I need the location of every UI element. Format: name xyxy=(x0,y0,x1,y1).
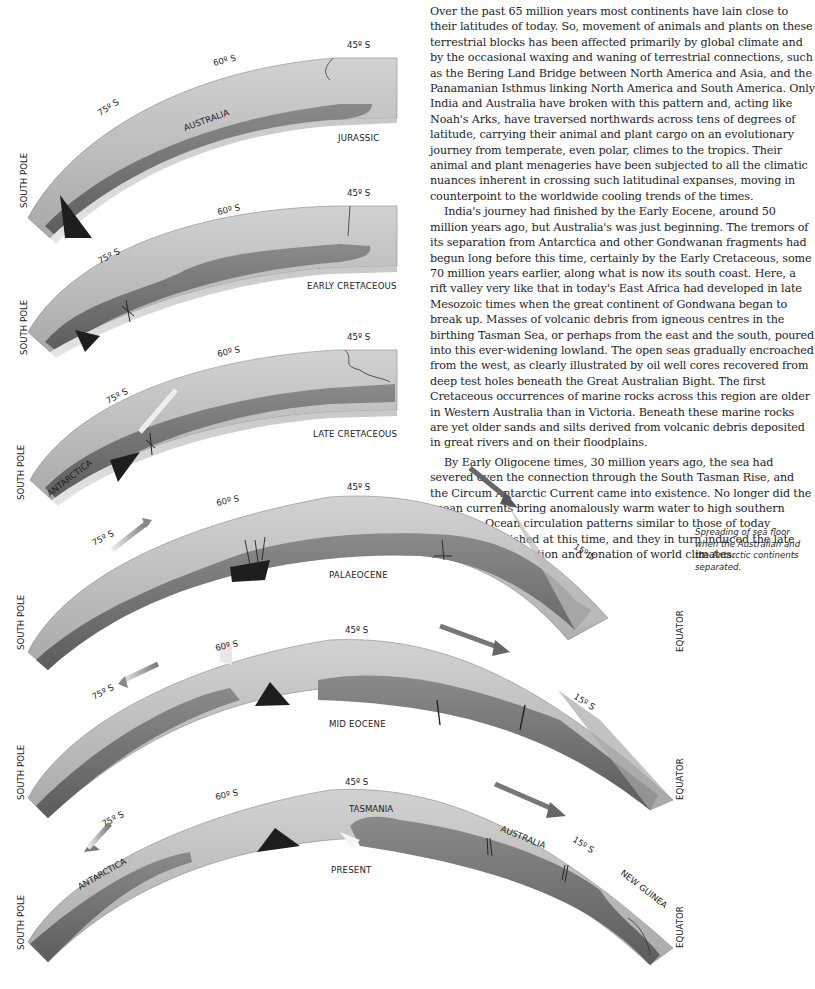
lat-label-60: 60º S xyxy=(215,493,240,508)
epoch-label: EARLY CRETACEOUS xyxy=(307,281,397,291)
lat-label-45: 45º S xyxy=(347,332,370,342)
south-pole-label: SOUTH POLE xyxy=(16,445,26,500)
lat-label-75: 75º S xyxy=(90,682,115,702)
lat-label-75: 75º S xyxy=(96,97,121,118)
epoch-label: LATE CRETACEOUS xyxy=(313,429,397,439)
equator-label: EQUATOR xyxy=(675,610,685,652)
lat-label-60: 60º S xyxy=(212,53,237,68)
lat-label-15: 15º S xyxy=(572,541,597,562)
epoch-label: PRESENT xyxy=(331,865,372,875)
panel-late-cretaceous: 75º S 60º S 45º S ANTARCTICA LATE CRETAC… xyxy=(16,332,397,506)
epoch-label: JURASSIC xyxy=(337,133,379,143)
equator-label: EQUATOR xyxy=(675,758,685,800)
epoch-label: MID EOCENE xyxy=(329,719,386,729)
lat-label-45: 45º S xyxy=(347,40,370,50)
lat-label-60: 60º S xyxy=(216,344,241,359)
panel-mid-eocene: 75º S 60º S 45º S 15º S MID EOCENE SOUTH… xyxy=(16,625,685,818)
lat-label-45: 45º S xyxy=(347,188,370,198)
south-pole-label: SOUTH POLE xyxy=(19,300,29,355)
figure-caption: Spreading of sea floor when the Australi… xyxy=(695,527,810,573)
lat-label-60: 60º S xyxy=(216,202,241,217)
lat-label-60: 60º S xyxy=(214,638,239,653)
south-pole-label: SOUTH POLE xyxy=(16,745,26,800)
equator-label: EQUATOR xyxy=(675,906,685,948)
south-pole-label: SOUTH POLE xyxy=(16,595,26,650)
lat-label-75: 75º S xyxy=(100,809,125,829)
landmass-label-new-guinea: NEW GUINEA xyxy=(619,868,670,911)
lat-label-75: 75º S xyxy=(90,528,115,548)
lat-label-15: 15º S xyxy=(571,834,596,855)
lat-label-45: 45º S xyxy=(347,482,370,492)
lat-label-45: 45º S xyxy=(345,625,368,635)
south-pole-label: SOUTH POLE xyxy=(19,153,29,208)
south-pole-label: SOUTH POLE xyxy=(16,895,26,950)
epoch-label: PALAEOCENE xyxy=(329,570,388,580)
panel-present: 75º S 60º S 45º S 15º S ANTARCTICA TASMA… xyxy=(16,777,685,965)
landmass-label-tasmania: TASMANIA xyxy=(348,804,393,814)
lat-label-60: 60º S xyxy=(214,787,239,802)
lat-label-45: 45º S xyxy=(345,777,368,787)
